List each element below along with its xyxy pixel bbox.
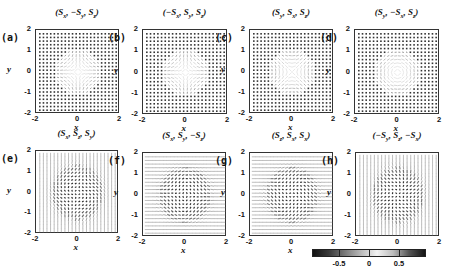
y-tick-label: 1 — [19, 45, 31, 54]
y-tick-label: 1 — [338, 45, 350, 54]
y-tick-label: 2 — [19, 24, 31, 33]
y-tick-label: 0 — [19, 187, 31, 196]
x-tick-label: -2 — [242, 237, 256, 246]
y-tick-label: 1 — [339, 168, 351, 177]
y-tick-label: 0 — [233, 189, 245, 198]
colorbar-tick-mark — [339, 249, 340, 257]
x-tick-label: 2 — [220, 115, 234, 124]
y-tick-label: -1 — [19, 87, 31, 96]
y-tick-label: 1 — [126, 45, 138, 54]
y-tick-label: 1 — [19, 166, 31, 175]
colorbar-tick-label: -0.5 — [330, 259, 348, 268]
y-tick-label: -1 — [126, 210, 138, 219]
y-tick-label: 2 — [233, 24, 245, 33]
y-tick-label: 2 — [233, 147, 245, 156]
x-tick-label: -2 — [348, 237, 362, 246]
plot-area-e — [35, 150, 118, 233]
panel-label-c: (c) — [215, 32, 233, 43]
panel-title-b: (−Sx, Sy, Sz) — [132, 7, 237, 19]
x-tick-label: 2 — [326, 237, 340, 246]
panel-title-f: (Sx, Sy, −Sz) — [132, 130, 236, 142]
y-axis-label: y — [326, 65, 330, 75]
y-axis-label: y — [327, 187, 331, 197]
panel-title-g: (Sz, Sx, Sx) — [239, 130, 343, 142]
x-axis-label: x — [74, 242, 79, 252]
x-axis-label: x — [288, 245, 293, 255]
y-tick-label: -1 — [233, 87, 245, 96]
colorbar-tick-label: 0.5 — [390, 259, 408, 268]
y-tick-label: 0 — [126, 67, 138, 76]
x-tick-label: -2 — [28, 234, 42, 243]
quiver-field — [355, 30, 440, 115]
y-axis-label: y — [221, 64, 225, 74]
y-tick-label: -1 — [339, 210, 351, 219]
colorbar-tick-label: 0 — [360, 259, 378, 268]
y-axis-label: y — [114, 187, 118, 197]
y-tick-label: 0 — [233, 66, 245, 75]
x-tick-label: -2 — [347, 115, 361, 124]
x-tick-label: -2 — [135, 115, 149, 124]
plot-area-a — [35, 29, 119, 113]
panel-label-d: (d) — [320, 32, 338, 43]
plot-area-f — [142, 152, 226, 236]
x-tick-label: 2 — [112, 114, 126, 123]
y-tick-label: 1 — [233, 168, 245, 177]
y-tick-label: 1 — [126, 168, 138, 177]
panel-label-h: (h) — [321, 155, 339, 166]
y-tick-label: 2 — [126, 147, 138, 156]
panel-title-e: (Sx, Sz, Sy) — [25, 128, 128, 140]
x-tick-label: 2 — [111, 234, 125, 243]
panel-label-f: (f) — [108, 155, 126, 166]
y-tick-label: 0 — [339, 189, 351, 198]
y-axis-label: y — [221, 187, 225, 197]
x-tick-label: -2 — [28, 114, 42, 123]
panel-title-a: (Sx, −Sy, Sz) — [25, 7, 129, 19]
plot-area-d — [354, 29, 439, 114]
y-tick-label: -1 — [126, 88, 138, 97]
y-tick-label: -1 — [338, 88, 350, 97]
y-tick-label: -1 — [19, 207, 31, 216]
colorbar-tick-mark — [399, 249, 400, 257]
panel-label-e: (e) — [1, 153, 19, 164]
x-tick-label: 0 — [390, 237, 404, 246]
y-tick-label: -1 — [233, 210, 245, 219]
y-tick-label: 2 — [126, 24, 138, 33]
y-tick-label: 1 — [233, 45, 245, 54]
panel-label-g: (g) — [215, 155, 233, 166]
y-axis-label: y — [114, 65, 118, 75]
colorbar-tick-mark — [369, 249, 370, 257]
y-tick-label: 2 — [339, 147, 351, 156]
panel-label-a: (a) — [1, 32, 19, 43]
panel-title-d: (Sy, −Sx, Sz) — [344, 7, 449, 19]
panel-title-c: (Sy, Sx, Sz) — [239, 7, 343, 19]
panel-title-h: (−Sy, Sz, −Sx) — [345, 130, 449, 142]
x-tick-label: -2 — [135, 237, 149, 246]
x-tick-label: -2 — [242, 114, 256, 123]
y-axis-label: y — [7, 185, 11, 195]
x-tick-label: 2 — [432, 237, 446, 246]
panel-label-b: (b) — [108, 32, 126, 43]
y-tick-label: 0 — [338, 67, 350, 76]
plot-area-h — [355, 152, 439, 236]
y-tick-label: 2 — [19, 145, 31, 154]
y-tick-label: 0 — [19, 66, 31, 75]
quiver-field — [356, 153, 440, 237]
y-tick-label: 2 — [338, 24, 350, 33]
y-tick-label: 0 — [126, 189, 138, 198]
x-tick-label: 2 — [219, 237, 233, 246]
quiver-field — [36, 151, 119, 234]
x-axis-label: x — [181, 245, 186, 255]
x-tick-label: 2 — [432, 115, 446, 124]
y-axis-label: y — [7, 64, 11, 74]
